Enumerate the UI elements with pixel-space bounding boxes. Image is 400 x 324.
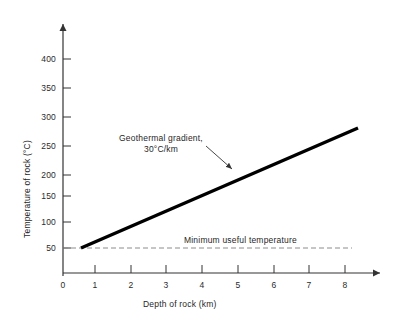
x-axis-title: Depth of rock (km) bbox=[143, 299, 217, 309]
y-tick-label-200: 200 bbox=[30, 170, 56, 180]
gradient-annotation: Geothermal gradient, 30°C/km bbox=[113, 133, 209, 155]
x-axis-ticks bbox=[95, 265, 345, 273]
x-tick-label-5: 5 bbox=[228, 280, 248, 290]
geothermal-gradient-chart: 400 350 300 250 200 150 100 50 0 1 2 3 4… bbox=[0, 0, 400, 324]
x-tick-label-0: 0 bbox=[53, 280, 73, 290]
y-tick-label-400: 400 bbox=[30, 54, 56, 64]
gradient-annotation-line-1: Geothermal gradient, bbox=[113, 133, 209, 144]
x-tick-label-3: 3 bbox=[156, 280, 176, 290]
plot-area bbox=[0, 0, 400, 324]
y-axis-ticks bbox=[63, 59, 71, 248]
gradient-annotation-line-2: 30°C/km bbox=[113, 144, 209, 155]
y-tick-label-300: 300 bbox=[30, 112, 56, 122]
threshold-annotation: Minimum useful temperature bbox=[184, 235, 297, 245]
y-tick-label-150: 150 bbox=[30, 191, 56, 201]
y-axis-title: Temperature of rock (°C) bbox=[22, 140, 32, 238]
x-tick-label-1: 1 bbox=[85, 280, 105, 290]
x-tick-label-4: 4 bbox=[192, 280, 212, 290]
annotation-leader-line bbox=[206, 146, 232, 169]
y-tick-label-100: 100 bbox=[30, 217, 56, 227]
x-tick-label-7: 7 bbox=[299, 280, 319, 290]
x-tick-label-8: 8 bbox=[335, 280, 355, 290]
y-tick-label-250: 250 bbox=[30, 141, 56, 151]
y-tick-label-350: 350 bbox=[30, 83, 56, 93]
x-tick-label-2: 2 bbox=[121, 280, 141, 290]
x-tick-label-6: 6 bbox=[264, 280, 284, 290]
y-tick-label-50: 50 bbox=[30, 243, 56, 253]
